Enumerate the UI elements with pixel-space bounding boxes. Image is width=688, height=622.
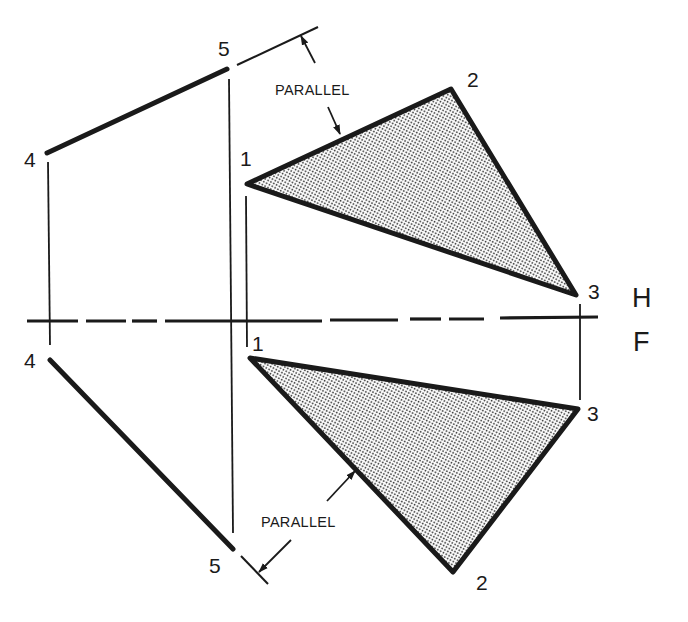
point-label-3-front: 3	[587, 402, 599, 425]
point-label-4-top: 4	[24, 148, 36, 171]
projector-4	[48, 162, 50, 345]
line-45-front	[50, 360, 233, 549]
leader-arrow-up	[301, 36, 315, 63]
leader-arrow-front-plane	[327, 471, 355, 501]
leader-arrow-front-line	[259, 540, 291, 572]
point-label-3-top: 3	[588, 280, 600, 303]
parallel-ref-line-front	[241, 556, 268, 584]
leader-arrow-down	[328, 107, 340, 134]
top-view: PARALLEL 4 5 1 2 3	[24, 27, 600, 303]
point-label-1-front: 1	[252, 332, 264, 355]
front-view: PARALLEL 4 1 3 2 5	[24, 332, 599, 594]
line-45-top	[47, 69, 227, 153]
fold-line	[27, 317, 598, 321]
point-label-2-front: 2	[476, 571, 488, 594]
fold-label-h: H	[632, 283, 652, 313]
parallel-label-top: PARALLEL	[275, 82, 350, 98]
point-label-4-front: 4	[24, 349, 36, 372]
projector-1	[246, 196, 247, 347]
point-label-5-top: 5	[218, 37, 230, 60]
fold-label-f: F	[633, 327, 650, 357]
plane-123-top	[247, 89, 576, 295]
parallel-label-front: PARALLEL	[261, 514, 336, 530]
projector-5	[229, 79, 233, 533]
point-label-5-front: 5	[209, 554, 221, 577]
point-label-2-top: 2	[467, 68, 479, 91]
point-label-1-top: 1	[240, 147, 252, 170]
projection-diagram: H F PARALLEL 4 5 1 2 3 PARALLEL 4 1 3	[0, 0, 688, 622]
plane-123-front	[250, 358, 578, 572]
